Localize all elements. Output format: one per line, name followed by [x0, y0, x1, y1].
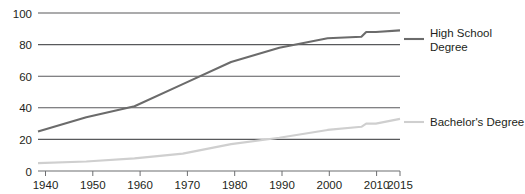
y-tick-labels: 100 80 60 40 20 0 [13, 8, 32, 178]
x-tick-labels: 1940 1950 1960 1970 1980 1990 2000 2010 … [33, 179, 413, 191]
xtick-label-1990: 1990 [269, 179, 295, 191]
xtick-label-1940: 1940 [33, 179, 59, 191]
legend: High School Degree Bachelor's Degree [404, 27, 524, 128]
ytick-label-80: 80 [19, 39, 32, 51]
legend-label-high-school-line2: Degree [430, 41, 468, 53]
gridlines [38, 13, 400, 139]
ytick-label-20: 20 [19, 134, 32, 146]
xtick-label-1950: 1950 [80, 179, 106, 191]
xtick-label-2010: 2010 [364, 179, 390, 191]
series-line-bachelors-degree [38, 119, 400, 163]
x-axis [38, 171, 400, 176]
ytick-label-60: 60 [19, 71, 32, 83]
xtick-label-2000: 2000 [317, 179, 343, 191]
xtick-label-2015: 2015 [387, 179, 413, 191]
ytick-label-40: 40 [19, 102, 32, 114]
xtick-label-1970: 1970 [175, 179, 201, 191]
legend-label-high-school-line1: High School [430, 27, 492, 39]
ytick-label-100: 100 [13, 8, 32, 20]
data-series [38, 30, 400, 163]
xtick-label-1980: 1980 [222, 179, 248, 191]
series-line-high-school-degree [38, 30, 400, 131]
legend-label-bachelors: Bachelor's Degree [430, 116, 524, 128]
ytick-label-0: 0 [26, 166, 32, 178]
xtick-label-1960: 1960 [127, 179, 153, 191]
chart-canvas: 100 80 60 40 20 0 1940 1950 1960 1970 19… [0, 0, 525, 194]
education-attainment-line-chart: 100 80 60 40 20 0 1940 1950 1960 1970 19… [0, 0, 525, 194]
